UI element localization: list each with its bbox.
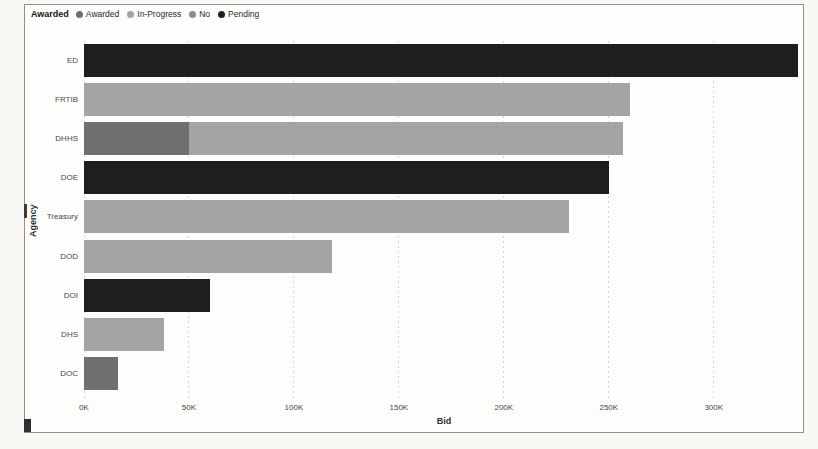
bar-dhhs xyxy=(84,122,623,155)
bar-doc xyxy=(84,357,118,390)
x-tick-label-300K: 300K xyxy=(704,403,723,412)
legend-item-no[interactable]: No xyxy=(189,9,210,19)
legend-item-pending[interactable]: Pending xyxy=(218,9,259,19)
x-tick-label-100K: 100K xyxy=(285,403,304,412)
bar-dod xyxy=(84,240,332,273)
x-tick-label-200K: 200K xyxy=(494,403,513,412)
legend-item-label: In-Progress xyxy=(137,9,181,19)
category-label-ed: ED xyxy=(67,56,78,65)
x-tick-label-50K: 50K xyxy=(182,403,196,412)
bar-rows: EDFRTIBDHHSDOETreasuryDODDOIDHSDOC xyxy=(84,41,804,393)
category-label-doi: DOI xyxy=(64,291,78,300)
bar-dhs xyxy=(84,318,164,351)
bar-row-doe: DOE xyxy=(84,158,804,197)
bar-row-ed: ED xyxy=(84,41,804,80)
x-tick-label-250K: 250K xyxy=(599,403,618,412)
legend-item-label: No xyxy=(199,9,210,19)
legend-items: AwardedIn-ProgressNoPending xyxy=(76,9,267,20)
bar-row-treasury: Treasury xyxy=(84,197,804,236)
legend-item-label: Pending xyxy=(228,9,259,19)
bar-ed xyxy=(84,44,798,77)
legend-item-awarded[interactable]: Awarded xyxy=(76,9,119,19)
bar-segment-ed-pending[interactable] xyxy=(84,44,798,77)
category-label-dhs: DHS xyxy=(61,330,78,339)
chart-panel: Awarded AwardedIn-ProgressNoPending Agen… xyxy=(24,4,804,433)
category-label-dhhs: DHHS xyxy=(55,134,78,143)
bar-row-doc: DOC xyxy=(84,354,804,393)
legend-title: Awarded xyxy=(31,9,69,19)
bar-row-dhhs: DHHS xyxy=(84,119,804,158)
category-label-frtib: FRTIB xyxy=(55,95,78,104)
legend: Awarded AwardedIn-ProgressNoPending xyxy=(31,9,267,20)
screenshot: Awarded AwardedIn-ProgressNoPending Agen… xyxy=(0,0,818,449)
x-axis: 0K50K100K150K200K250K300K xyxy=(84,403,804,415)
bar-doi xyxy=(84,279,210,312)
bar-segment-dhhs-in-progress[interactable] xyxy=(189,122,624,155)
legend-item-in-progress[interactable]: In-Progress xyxy=(127,9,181,19)
bar-row-dhs: DHS xyxy=(84,315,804,354)
bar-segment-dod-in-progress[interactable] xyxy=(84,240,332,273)
bar-treasury xyxy=(84,200,569,233)
category-label-doc: DOC xyxy=(60,369,78,378)
bar-segment-doe-pending[interactable] xyxy=(84,161,609,194)
left-edge-mark xyxy=(24,204,27,218)
bar-segment-doi-pending[interactable] xyxy=(84,279,210,312)
bar-segment-dhhs-awarded[interactable] xyxy=(84,122,189,155)
x-tick-label-150K: 150K xyxy=(390,403,409,412)
x-axis-title: Bid xyxy=(84,416,804,426)
legend-dot-icon xyxy=(189,11,196,18)
bar-row-frtib: FRTIB xyxy=(84,80,804,119)
bar-row-doi: DOI xyxy=(84,276,804,315)
legend-dot-icon xyxy=(218,11,225,18)
category-label-doe: DOE xyxy=(61,173,78,182)
y-axis-title: Agency xyxy=(28,185,38,257)
bar-segment-treasury-in-progress[interactable] xyxy=(84,200,569,233)
category-label-dod: DOD xyxy=(60,252,78,261)
legend-item-label: Awarded xyxy=(86,9,119,19)
legend-dot-icon xyxy=(127,11,134,18)
x-tick-label-0K: 0K xyxy=(79,403,89,412)
bar-segment-dhs-in-progress[interactable] xyxy=(84,318,164,351)
plot-area: EDFRTIBDHHSDOETreasuryDODDOIDHSDOC xyxy=(84,41,804,393)
bar-segment-frtib-in-progress[interactable] xyxy=(84,83,630,116)
bar-frtib xyxy=(84,83,630,116)
corner-mark xyxy=(24,419,31,432)
legend-dot-icon xyxy=(76,11,83,18)
bar-doe xyxy=(84,161,609,194)
bar-segment-doc-awarded[interactable] xyxy=(84,357,118,390)
bar-row-dod: DOD xyxy=(84,237,804,276)
category-label-treasury: Treasury xyxy=(47,212,78,221)
